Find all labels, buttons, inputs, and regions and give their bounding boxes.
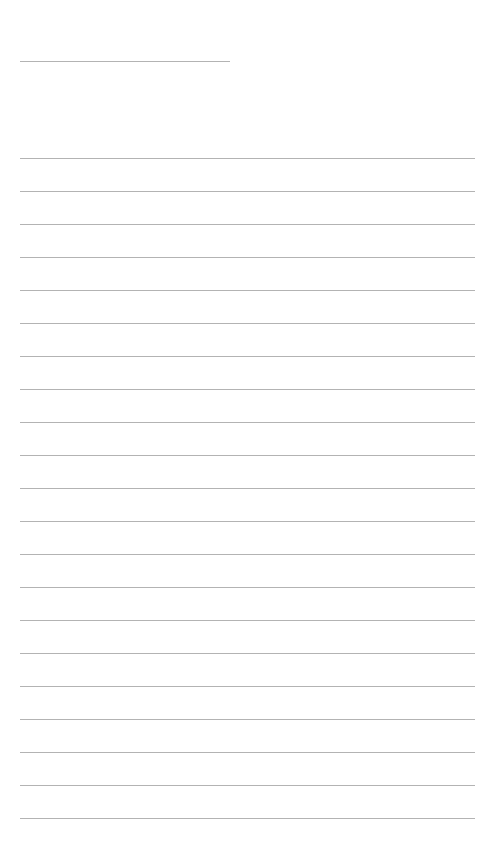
ruled-line <box>20 191 475 192</box>
ruled-line <box>20 686 475 687</box>
ruled-line <box>20 752 475 753</box>
ruled-line <box>20 488 475 489</box>
ruled-line <box>20 455 475 456</box>
ruled-line <box>20 818 475 819</box>
ruled-line <box>20 323 475 324</box>
ruled-line <box>20 521 475 522</box>
ruled-line <box>20 290 475 291</box>
title-line <box>20 61 230 62</box>
ruled-line <box>20 422 475 423</box>
ruled-line <box>20 620 475 621</box>
ruled-line <box>20 653 475 654</box>
ruled-line <box>20 224 475 225</box>
ruled-line <box>20 587 475 588</box>
ruled-line <box>20 554 475 555</box>
ruled-line <box>20 356 475 357</box>
ruled-line <box>20 158 475 159</box>
ruled-line <box>20 785 475 786</box>
ruled-line <box>20 389 475 390</box>
ruled-line <box>20 257 475 258</box>
ruled-line <box>20 719 475 720</box>
